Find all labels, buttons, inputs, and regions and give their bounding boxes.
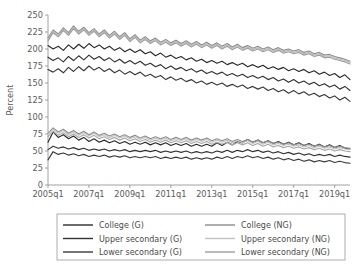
- legend-label: College (G): [99, 221, 144, 230]
- legend-label: Lower secondary (NG): [241, 248, 330, 257]
- legend-label: College (NG): [241, 221, 292, 230]
- y-tick-label: 250: [27, 10, 43, 20]
- y-tick-label: 150: [27, 78, 43, 88]
- x-tick-label: 2009q1: [114, 189, 145, 199]
- y-tick-label: 75: [33, 129, 43, 139]
- y-tick-label: 225: [27, 27, 43, 37]
- legend-label: Upper secondary (G): [99, 235, 182, 244]
- x-tick-label: 2017q1: [278, 189, 309, 199]
- series-line: [48, 152, 350, 164]
- chart-legend: College (G)Upper secondary (G)Lower seco…: [57, 214, 345, 260]
- data-lines: [48, 26, 350, 163]
- y-tick-label: 200: [27, 44, 43, 54]
- x-tick-label: 2019q1: [319, 189, 350, 199]
- x-tick-label: 2011q1: [155, 189, 186, 199]
- y-tick-label: 100: [27, 112, 43, 122]
- axes: 02550751001251501752002252502005q12007q1…: [5, 10, 350, 199]
- x-tick-label: 2005q1: [32, 189, 63, 199]
- y-tick-label: 175: [27, 61, 43, 71]
- x-tick-label: 2007q1: [73, 189, 104, 199]
- y-tick-label: 125: [27, 95, 43, 105]
- x-tick-label: 2015q1: [237, 189, 268, 199]
- series-line: [48, 44, 350, 80]
- x-tick-label: 2013q1: [196, 189, 227, 199]
- y-tick-label: 25: [33, 163, 43, 173]
- legend-label: Lower secondary (G): [99, 248, 182, 257]
- y-axis-title: Percent: [5, 84, 15, 116]
- line-chart: 02550751001251501752002252502005q12007q1…: [0, 0, 356, 268]
- y-tick-label: 50: [33, 146, 43, 156]
- chart-figure: 02550751001251501752002252502005q12007q1…: [0, 0, 356, 268]
- legend-label: Upper secondary (NG): [241, 235, 330, 244]
